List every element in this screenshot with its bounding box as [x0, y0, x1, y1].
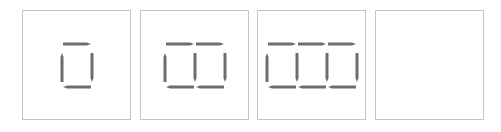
matchstick-vertical: [91, 53, 94, 82]
matchstick-vertical: [164, 53, 167, 82]
answer-panel-empty[interactable]: [375, 10, 484, 120]
pattern-panel-2: [140, 10, 249, 120]
matchstick-horizontal: [298, 86, 326, 89]
matchstick-horizontal: [268, 43, 296, 46]
matchstick-figure: [376, 11, 485, 121]
matchstick-vertical: [356, 53, 359, 82]
matchstick-horizontal: [166, 86, 194, 89]
matchstick-horizontal: [196, 86, 224, 89]
matchstick-vertical: [61, 53, 64, 82]
matchstick-figure: [23, 11, 132, 121]
matchstick-vertical: [194, 53, 197, 82]
matchstick-vertical: [296, 53, 299, 82]
matchstick-horizontal: [328, 86, 356, 89]
matchstick-vertical: [224, 53, 227, 82]
matchstick-horizontal: [328, 43, 356, 46]
pattern-panel-1: [22, 10, 131, 120]
matchstick-horizontal: [268, 86, 296, 89]
matchstick-horizontal: [63, 86, 91, 89]
matchstick-figure: [258, 11, 367, 121]
matchstick-vertical: [266, 53, 269, 82]
matchstick-horizontal: [63, 43, 91, 46]
matchstick-horizontal: [298, 43, 326, 46]
matchstick-horizontal: [196, 43, 224, 46]
matchstick-figure: [141, 11, 250, 121]
matchstick-horizontal: [166, 43, 194, 46]
matchstick-vertical: [326, 53, 329, 82]
pattern-panel-3: [257, 10, 366, 120]
